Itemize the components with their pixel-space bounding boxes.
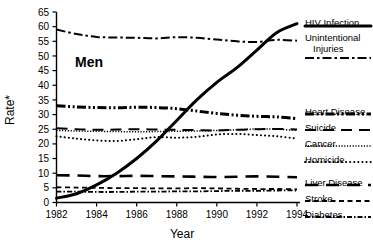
svg-text:45: 45 [38,65,50,76]
svg-text:1990: 1990 [206,209,229,220]
legend-label-suicide: Suicide [305,122,336,133]
svg-text:35: 35 [38,95,50,106]
legend-item-unintentional-injuries[interactable]: Unintentional Injuries [305,33,360,54]
svg-text:10: 10 [38,168,50,179]
legend-label-hiv: HIV Infection [305,17,359,28]
svg-text:1988: 1988 [166,209,189,220]
svg-text:40: 40 [38,80,50,91]
y-axis-tick-labels: 05101520253035404550556065 [38,7,50,209]
svg-text:1984: 1984 [85,209,108,220]
svg-text:5: 5 [43,182,49,193]
svg-text:0: 0 [43,197,49,208]
svg-text:65: 65 [38,7,50,18]
series-line-hiv-infection [57,24,298,198]
y-axis-title: Rate* [3,95,17,125]
legend-label-unintentional-line2: Injuries [305,44,360,55]
x-axis-tick-labels: 1982198419861988199019921994 [45,209,308,220]
legend-label-heart-disease: Heart Disease [305,106,365,117]
series-line-heart-disease [57,106,298,119]
legend-item-diabetes[interactable]: Diabetes [305,204,343,222]
legend-label-diabetes: Diabetes [305,209,343,220]
svg-text:55: 55 [38,36,50,47]
series-line-unintentional-injuries [57,30,298,42]
svg-text:30: 30 [38,109,50,120]
x-axis-title: Year [170,227,194,241]
svg-text:20: 20 [38,138,50,149]
series-line-stroke [57,187,298,189]
svg-text:15: 15 [38,153,50,164]
legend-label-liver-disease: Liver Disease [305,177,363,188]
panel-label-men: Men [75,54,103,70]
data-series-group [57,24,298,198]
svg-text:50: 50 [38,51,50,62]
chart-container: 05101520253035404550556065 1982198419861… [0,0,373,243]
svg-text:1986: 1986 [126,209,149,220]
series-line-liver-disease [57,175,298,177]
legend-label-homicide: Homicide [305,154,345,165]
series-line-homicide [57,134,298,141]
svg-text:25: 25 [38,124,50,135]
legend-label-unintentional-line1: Unintentional [305,33,360,44]
svg-text:1982: 1982 [45,209,68,220]
svg-text:60: 60 [38,21,50,32]
legend-label-cancer: Cancer [305,138,336,149]
legend-item-hiv[interactable]: HIV Infection [305,12,359,30]
series-line-diabetes [57,190,298,192]
legend-item-homicide[interactable]: Homicide [305,149,345,167]
svg-text:1992: 1992 [246,209,269,220]
legend-label-stroke: Stroke [305,193,332,204]
